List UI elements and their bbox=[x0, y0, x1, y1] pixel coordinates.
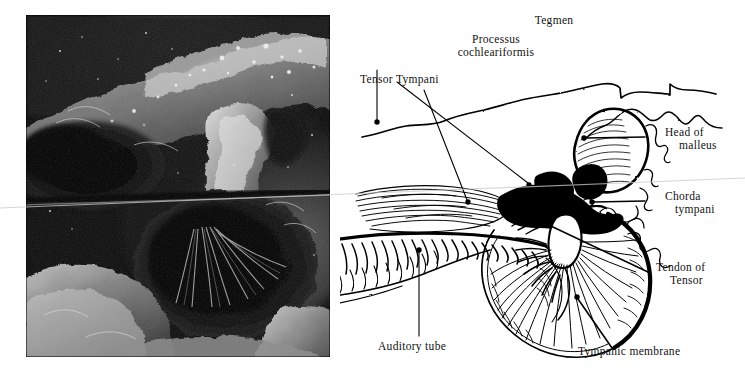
label-tegmen: Tegmen bbox=[518, 14, 590, 27]
label-head-of-malleus: Head of malleus bbox=[665, 126, 740, 152]
tensor-tympani-muscle bbox=[356, 186, 508, 232]
leader-dot-head-of-malleus bbox=[581, 135, 586, 140]
label-auditory-tube: Auditory tube bbox=[378, 340, 446, 353]
label-processus-line1: Processus bbox=[437, 33, 555, 46]
label-chorda-tympani: Chorda tympani bbox=[665, 190, 740, 216]
dissection-photograph bbox=[26, 15, 330, 357]
leader-dot-tegmen bbox=[374, 119, 379, 124]
label-head-of-malleus-line1: Head of bbox=[665, 126, 740, 139]
leader-tympanic-membrane bbox=[578, 299, 612, 348]
anatomical-figure: Tegmen Processus cochleariformis Tensor … bbox=[0, 0, 745, 382]
label-head-of-malleus-line2: malleus bbox=[665, 139, 740, 152]
label-processus-line2: cochleariformis bbox=[437, 46, 555, 59]
leader-dot-auditory-tube bbox=[416, 247, 421, 252]
label-tensor-tympani: Tensor Tympani bbox=[360, 73, 439, 86]
leader-dot-tympanic-membrane bbox=[574, 294, 579, 299]
label-tegmen-text: Tegmen bbox=[518, 14, 590, 27]
leader-chorda-tympani bbox=[594, 201, 645, 202]
leader-processus bbox=[397, 82, 528, 183]
label-tensor-tympani-text: Tensor Tympani bbox=[360, 73, 439, 86]
leader-tensor-tympani bbox=[424, 90, 467, 200]
tegmen-contour bbox=[362, 84, 716, 137]
label-tympanic-membrane-text: Tympanic membrane bbox=[578, 345, 680, 358]
leader-dot-processus bbox=[526, 182, 531, 187]
auditory-tube bbox=[340, 233, 570, 322]
label-chorda-line1: Chorda bbox=[665, 190, 740, 203]
leader-head-of-malleus bbox=[586, 137, 645, 138]
leader-dot-tensor-tympani bbox=[465, 199, 470, 204]
label-auditory-tube-text: Auditory tube bbox=[378, 340, 446, 353]
label-chorda-line2: tympani bbox=[665, 203, 740, 216]
leader-dot-chorda-tympani bbox=[589, 199, 594, 204]
label-tendon-line2: Tensor bbox=[656, 274, 738, 287]
label-tendon-line1: Tendon of bbox=[656, 261, 738, 274]
label-tympanic-membrane: Tympanic membrane bbox=[578, 345, 680, 358]
photograph-canvas bbox=[26, 15, 330, 357]
label-tendon-of-tensor: Tendon of Tensor bbox=[656, 261, 738, 287]
label-processus-cochleariformis: Processus cochleariformis bbox=[437, 33, 555, 59]
